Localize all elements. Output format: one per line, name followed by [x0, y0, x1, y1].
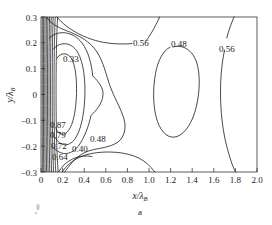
x-tick-label: 1.6: [208, 175, 220, 185]
contour-label-056-right: 0.56: [219, 44, 235, 54]
y-tick-label: 0.3: [26, 13, 38, 23]
contour-label-079: 0.79: [50, 130, 66, 140]
y-tick-label: −0.1: [21, 116, 37, 126]
x-tick-label: 1.4: [187, 175, 199, 185]
contour-label-064: 0.64: [52, 152, 68, 162]
contour-label-072: 0.72: [51, 141, 67, 151]
x-tick-label: 1.8: [230, 175, 242, 185]
contour-label-048-center: 0.48: [171, 39, 187, 49]
contour-plot-svg: 0 0.2 0.4 0.6 0.8 1.0 1.2 1.4 1.6 1.8 2.…: [0, 0, 272, 225]
svg-text:x/λB: x/λB: [132, 191, 148, 202]
scan-artifact: [35, 204, 40, 215]
x-tick-labels: 0 0.2 0.4 0.6 0.8 1.0 1.2 1.4 1.6 1.8 2.…: [39, 175, 263, 185]
central-oval-contour: [154, 46, 200, 137]
y-tick-label: 0: [33, 90, 38, 100]
contour-label-048-left: 0.48: [90, 134, 106, 144]
contour-label-040: 0.40: [72, 144, 88, 154]
svg-text:y/λB: y/λB: [5, 88, 16, 104]
x-tick-label: 0: [39, 175, 44, 185]
x-tick-label: 0.4: [79, 175, 91, 185]
contour-label-056-top: 0.56: [133, 38, 149, 48]
y-tick-label: 0.2: [26, 38, 37, 48]
y-axis-ticks: [41, 17, 45, 172]
x-axis-title-sub: B: [144, 195, 148, 202]
x-axis-title: x/λB: [132, 191, 148, 202]
x-tick-label: 0.8: [122, 175, 134, 185]
y-tick-label: 0.1: [26, 64, 37, 74]
x-axis-ticks: [41, 168, 257, 172]
contour-label-087: 0.87: [50, 120, 66, 130]
right-vertical-contour: [220, 17, 235, 172]
x-tick-label: 1.2: [165, 175, 176, 185]
y-axis-title-sub: B: [9, 88, 16, 92]
y-tick-label: −0.3: [21, 168, 38, 178]
x-tick-label: 1.0: [143, 175, 155, 185]
contour-labels: 0.33 0.40 0.48 0.48 0.56 0.56 0.64 0.72 …: [50, 38, 235, 162]
x-tick-label: 0.6: [100, 175, 112, 185]
figure-caption: a: [138, 207, 142, 217]
y-tick-labels: 0.3 0.2 0.1 0 −0.1 −0.2 −0.3: [21, 13, 38, 178]
contour-label-033: 0.33: [63, 54, 79, 64]
y-tick-label: −0.2: [21, 142, 37, 152]
y-axis-title: y/λB: [5, 88, 16, 104]
x-tick-label: 2.0: [251, 175, 263, 185]
x-tick-label: 0.2: [57, 175, 68, 185]
contour-figure: 0 0.2 0.4 0.6 0.8 1.0 1.2 1.4 1.6 1.8 2.…: [0, 0, 272, 225]
